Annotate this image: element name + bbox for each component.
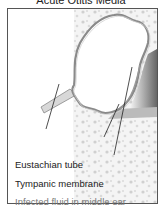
label-infected-fluid: Infected fluid in middle ear xyxy=(15,196,126,207)
label-eustachian-tube: Eustachian tube xyxy=(15,159,83,170)
label-tympanic-membrane: Tympanic membrane xyxy=(15,178,104,189)
eustachian-tube-shape xyxy=(41,89,76,113)
diagram-title: Acute Otitis Media xyxy=(0,0,162,6)
illustration-frame xyxy=(7,8,158,204)
middle-ear-illustration xyxy=(8,9,157,203)
